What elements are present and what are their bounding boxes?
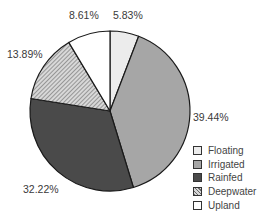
legend-label-deepwater: Deepwater — [208, 186, 256, 197]
label-floating: 5.83% — [113, 9, 143, 21]
label-irrigated: 39.44% — [193, 111, 229, 123]
legend-swatch-upland — [193, 201, 202, 210]
legend-swatch-floating — [193, 146, 202, 155]
legend-swatch-rainfed — [193, 173, 202, 182]
legend-swatch-deepwater — [193, 187, 202, 196]
legend-label-rainfed: Rainfed — [208, 172, 242, 183]
legend-swatch-irrigated — [193, 160, 202, 169]
legend-item-upland: Upland — [193, 198, 256, 212]
legend-label-upland: Upland — [208, 200, 240, 211]
label-upland: 8.61% — [69, 9, 99, 21]
legend-item-irrigated: Irrigated — [193, 158, 256, 172]
legend-label-irrigated: Irrigated — [208, 159, 245, 170]
legend-item-deepwater: Deepwater — [193, 185, 256, 199]
label-rainfed: 32.22% — [23, 183, 59, 195]
label-deepwater: 13.89% — [7, 48, 43, 60]
legend-item-rainfed: Rainfed — [193, 171, 256, 185]
legend-label-floating: Floating — [208, 145, 244, 156]
legend-item-floating: Floating — [193, 144, 256, 158]
chart-legend: Floating Irrigated Rainfed Deepwater Upl… — [193, 144, 256, 212]
